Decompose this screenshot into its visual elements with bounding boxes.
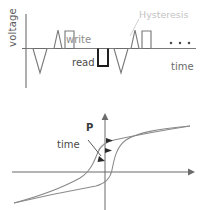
figure-svg <box>0 0 205 210</box>
voltage-axis-label: voltage <box>7 2 18 54</box>
polarization-axis-arrowhead <box>102 113 109 120</box>
hysteresis-upward-branch <box>14 126 190 203</box>
hysteresis-downward-branch <box>14 126 190 203</box>
polarization-axis-label: P <box>86 122 93 133</box>
read-pulse <box>98 49 108 67</box>
time-leader-line <box>88 140 101 156</box>
direction-arrow-upper <box>106 138 113 143</box>
write-annotation: write <box>66 34 91 45</box>
bottom-panel <box>12 113 195 210</box>
read-annotation: read <box>72 57 95 68</box>
field-axis-arrowhead <box>188 169 195 176</box>
direction-arrow-lower <box>98 156 106 162</box>
time-axis-label: time <box>171 61 194 72</box>
time-direction-annotation: time <box>57 139 80 150</box>
hysteresis-annotation: Hysteresis <box>139 9 188 20</box>
top-panel <box>22 14 196 88</box>
direction-arrow-middle <box>105 148 112 153</box>
continuation-dots <box>170 42 191 45</box>
